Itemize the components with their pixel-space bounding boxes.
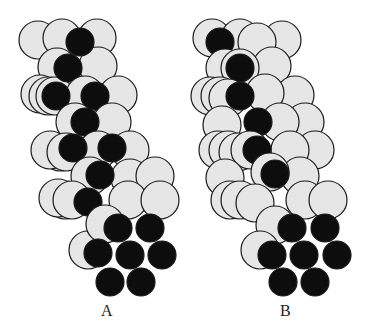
dark-atom: [301, 268, 329, 296]
dark-atom: [290, 241, 318, 269]
dark-atom: [84, 239, 112, 267]
dark-atom: [278, 214, 306, 242]
dark-atom: [104, 214, 132, 242]
molecular-models-diagram: [0, 0, 371, 332]
dark-atom: [323, 241, 351, 269]
model-b-label: B: [280, 302, 291, 320]
dark-atom: [226, 82, 254, 110]
dark-atom: [311, 214, 339, 242]
space-filling-model-b: [191, 19, 351, 296]
dark-atom: [269, 268, 297, 296]
dark-atom: [136, 214, 164, 242]
dark-atom: [86, 161, 114, 189]
dark-atom: [258, 241, 286, 269]
dark-atom: [148, 241, 176, 269]
dark-atom: [127, 268, 155, 296]
space-filling-model-a: [19, 19, 179, 296]
dark-atom: [66, 28, 94, 56]
dark-atom: [226, 54, 254, 82]
dark-atom: [261, 160, 289, 188]
dark-atom: [98, 134, 126, 162]
light-atom: [141, 181, 179, 219]
light-atom: [309, 181, 347, 219]
model-a-label: A: [101, 302, 113, 320]
dark-atom: [116, 241, 144, 269]
dark-atom: [96, 268, 124, 296]
